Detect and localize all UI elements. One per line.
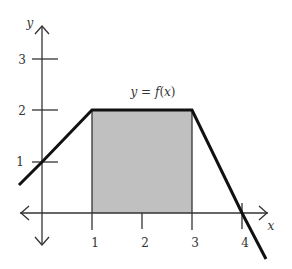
graph: 1 2 3 4 1 2 3 x y y = f(x) — [0, 0, 292, 269]
shaded-region — [92, 110, 192, 213]
curve-label: y = f(x) — [129, 85, 175, 99]
y-tick-label-1: 1 — [16, 155, 24, 169]
x-tick-label-1: 1 — [91, 236, 99, 250]
y-tick-label-3: 3 — [18, 53, 26, 67]
x-tick-label-4: 4 — [241, 236, 249, 250]
y-axis-label: y — [26, 16, 34, 30]
y-tick-label-2: 2 — [18, 104, 26, 118]
x-tick-label-3: 3 — [191, 236, 199, 250]
x-tick-label-2: 2 — [141, 236, 149, 250]
x-axis-label: x — [268, 219, 275, 233]
